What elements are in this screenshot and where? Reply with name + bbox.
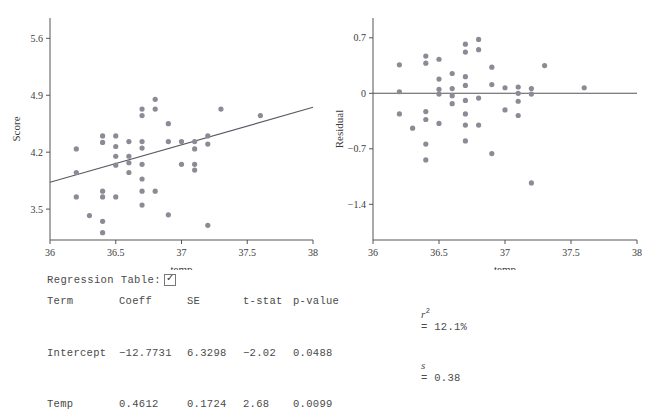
header-se: SE bbox=[187, 294, 243, 346]
x-tick-label: 38 bbox=[632, 247, 642, 258]
data-point bbox=[502, 107, 507, 112]
data-point bbox=[450, 86, 455, 91]
y-tick-label: 3.5 bbox=[31, 204, 44, 215]
data-point bbox=[516, 84, 521, 89]
r-squared-stat: r2 = 12.1% bbox=[355, 294, 467, 346]
data-point bbox=[476, 47, 481, 52]
data-point bbox=[436, 76, 441, 81]
x-tick-label: 36 bbox=[45, 247, 55, 258]
row-temp-term: Temp bbox=[47, 397, 119, 411]
data-point bbox=[436, 121, 441, 126]
y-tick-label: 5.6 bbox=[31, 33, 44, 44]
data-point bbox=[126, 170, 131, 175]
data-point bbox=[476, 37, 481, 42]
data-point bbox=[436, 87, 441, 92]
regression-table: Term Coeff SE t-stat p-value r2 = 12.1% … bbox=[47, 294, 467, 411]
data-point bbox=[450, 93, 455, 98]
y-tick-label: −0.7 bbox=[348, 143, 366, 154]
row-intercept-tstat: −2.02 bbox=[243, 346, 293, 397]
data-point bbox=[463, 111, 468, 116]
data-point bbox=[153, 106, 158, 111]
x-tick-label: 37 bbox=[500, 247, 510, 258]
data-point bbox=[192, 146, 197, 151]
row-temp-pvalue: 0.0099 bbox=[293, 397, 355, 411]
data-point bbox=[205, 223, 210, 228]
data-point bbox=[529, 180, 534, 185]
s-value: = 0.38 bbox=[421, 372, 461, 384]
data-point bbox=[192, 167, 197, 172]
data-point bbox=[529, 86, 534, 91]
table-row: Intercept −12.7731 6.3298 −2.02 0.0488 s… bbox=[47, 346, 467, 397]
data-point bbox=[74, 146, 79, 151]
data-point bbox=[113, 194, 118, 199]
row-temp-tstat: 2.68 bbox=[243, 397, 293, 411]
data-point bbox=[258, 113, 263, 118]
row-temp-blank bbox=[355, 397, 467, 411]
data-point bbox=[100, 189, 105, 194]
data-point bbox=[410, 126, 415, 131]
data-point bbox=[463, 74, 468, 79]
row-intercept-pvalue: 0.0488 bbox=[293, 346, 355, 397]
data-point bbox=[423, 61, 428, 66]
y-tick-label: 4.9 bbox=[31, 90, 44, 101]
header-term: Term bbox=[47, 294, 119, 346]
data-point bbox=[113, 133, 118, 138]
data-point bbox=[516, 99, 521, 104]
y-axis-title: Score bbox=[10, 116, 22, 141]
data-point bbox=[529, 92, 534, 97]
data-point bbox=[113, 154, 118, 159]
data-point bbox=[139, 162, 144, 167]
x-tick-label: 37 bbox=[177, 247, 187, 258]
data-point bbox=[139, 146, 144, 151]
data-point bbox=[179, 162, 184, 167]
data-point bbox=[139, 113, 144, 118]
data-point bbox=[489, 82, 494, 87]
x-tick-label: 36.5 bbox=[107, 247, 125, 258]
data-point bbox=[166, 212, 171, 217]
y-tick-label: −1.4 bbox=[348, 199, 366, 210]
data-point bbox=[100, 140, 105, 145]
s-label: s bbox=[421, 359, 426, 371]
score-vs-temp-chart: 5.64.94.23.53636.53737.538tempScore bbox=[0, 0, 330, 270]
data-point bbox=[463, 122, 468, 127]
data-point bbox=[139, 139, 144, 144]
regression-table-checkbox[interactable]: ✓ bbox=[164, 274, 176, 286]
data-point bbox=[166, 121, 171, 126]
check-icon: ✓ bbox=[166, 273, 174, 283]
row-intercept-term: Intercept bbox=[47, 346, 119, 397]
data-point bbox=[113, 144, 118, 149]
data-point bbox=[463, 49, 468, 54]
data-point bbox=[139, 202, 144, 207]
data-point bbox=[139, 106, 144, 111]
data-point bbox=[192, 139, 197, 144]
score-plot-svg: 5.64.94.23.53636.53737.538tempScore bbox=[0, 0, 330, 270]
data-point bbox=[153, 189, 158, 194]
data-point bbox=[542, 63, 547, 68]
data-point bbox=[423, 141, 428, 146]
data-point bbox=[218, 106, 223, 111]
y-tick-label: 4.2 bbox=[31, 147, 44, 158]
regression-table-toggle-row[interactable]: Regression Table: ✓ bbox=[47, 274, 176, 286]
data-point bbox=[489, 151, 494, 156]
data-point bbox=[516, 91, 521, 96]
data-point bbox=[397, 62, 402, 67]
x-tick-label: 37.5 bbox=[239, 247, 257, 258]
data-point bbox=[450, 101, 455, 106]
data-point bbox=[397, 111, 402, 116]
x-tick-label: 37.5 bbox=[562, 247, 580, 258]
regression-table-label: Regression Table: bbox=[47, 274, 161, 286]
data-point bbox=[436, 57, 441, 62]
y-axis-title: Residual bbox=[333, 110, 345, 149]
data-point bbox=[463, 98, 468, 103]
row-intercept-coeff: −12.7731 bbox=[119, 346, 187, 397]
regression-output-panel: Regression Table: ✓ Term Coeff SE t-stat… bbox=[0, 268, 650, 354]
data-point bbox=[166, 139, 171, 144]
data-point bbox=[463, 83, 468, 88]
x-tick-label: 38 bbox=[308, 247, 318, 258]
x-tick-label: 36 bbox=[368, 247, 378, 258]
data-point bbox=[205, 141, 210, 146]
row-intercept-se: 6.3298 bbox=[187, 346, 243, 397]
y-tick-label: 0 bbox=[361, 88, 366, 99]
data-point bbox=[582, 85, 587, 90]
data-point bbox=[100, 133, 105, 138]
